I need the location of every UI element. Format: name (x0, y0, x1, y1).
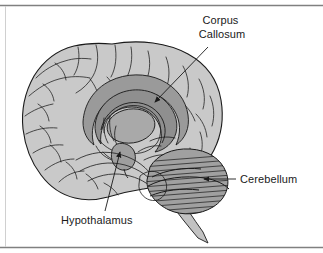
label-cerebellum-line-1: Cerebellum (240, 173, 297, 185)
label-corpus-callosum: Corpus Callosum (199, 14, 246, 40)
label-hypothalamus-line-1: Hypothalamus (61, 214, 133, 226)
label-corpus-callosum-line-1: Corpus (202, 14, 238, 26)
label-cerebellum: Cerebellum (240, 173, 297, 185)
brain-diagram-figure: Corpus Callosum Cerebellum Hypothalamus (0, 0, 323, 253)
label-hypothalamus: Hypothalamus (61, 214, 133, 226)
hypothalamus-shape (111, 143, 135, 170)
label-corpus-callosum-line-2: Callosum (199, 28, 246, 40)
brain-illustration (22, 42, 232, 243)
brain-diagram-svg: Corpus Callosum Cerebellum Hypothalamus (0, 0, 323, 253)
